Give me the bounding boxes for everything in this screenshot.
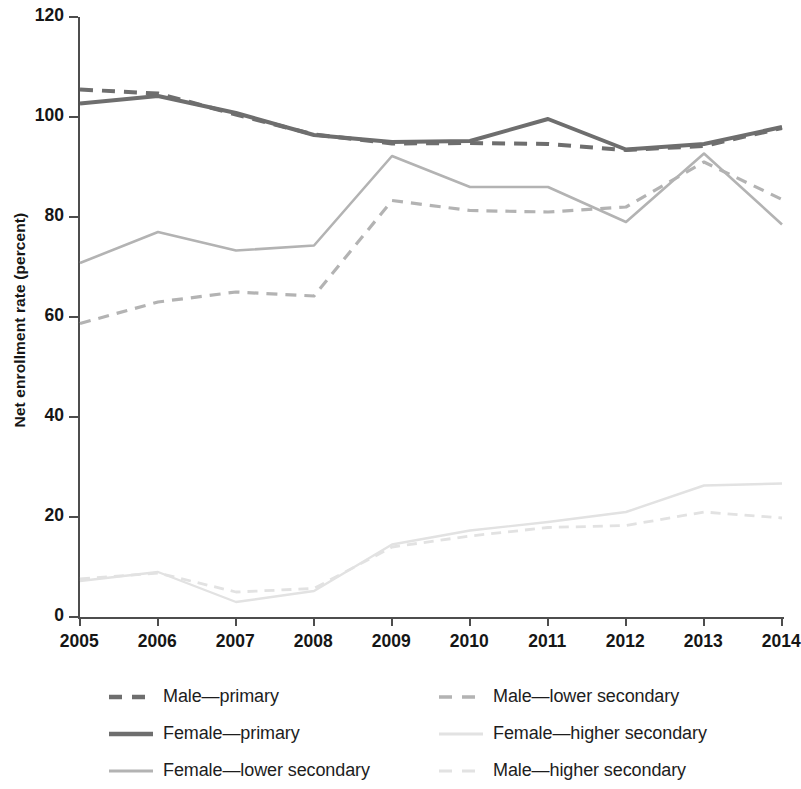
x-axis-tick: 2005 [79,617,81,626]
y-axis-tick: 100 [69,116,78,118]
y-axis-title-text: Net enrollment rate (percent) [11,213,29,428]
legend-item-female-lower-secondary[interactable]: Female—lower secondary [108,752,438,789]
legend-label-female-higher-secondary: Female—higher secondary [493,723,707,744]
y-axis-tick: 40 [69,416,78,418]
y-axis-tick-label: 40 [45,405,64,425]
x-axis-tick-label: 2009 [372,631,411,652]
legend-label-female-lower-secondary: Female—lower secondary [163,760,370,781]
y-axis-tick-label: 80 [45,205,64,225]
x-axis-tick-label: 2005 [60,631,99,652]
series-line-male-higher-secondary [80,512,782,592]
y-axis-tick-label: 100 [35,105,64,125]
x-axis-tick: 2006 [157,617,159,626]
x-axis-tick-label: 2007 [216,631,255,652]
series-lines [78,17,784,617]
x-axis-tick-label: 2012 [606,631,645,652]
y-axis-tick-label: 20 [45,505,64,525]
x-axis-tick-label: 2008 [294,631,333,652]
x-axis-tick: 2009 [391,617,393,626]
x-axis-tick: 2014 [781,617,783,626]
legend-swatch-male-higher-secondary [438,764,484,778]
series-line-male-lower-secondary [80,162,782,324]
legend-label-male-lower-secondary: Male—lower secondary [493,686,679,707]
legend-label-male-primary: Male—primary [163,686,279,707]
x-axis-tick: 2010 [469,617,471,626]
y-axis-tick: 0 [69,616,78,618]
legend-swatch-male-lower-secondary [438,690,484,704]
chart-legend: Male—primaryMale—lower secondaryFemale—p… [108,678,780,789]
legend-item-male-primary[interactable]: Male—primary [108,678,438,715]
series-line-female-lower-secondary [80,154,782,264]
legend-swatch-female-higher-secondary [438,727,484,741]
legend-label-male-higher-secondary: Male—higher secondary [493,760,686,781]
x-axis-line [78,617,784,619]
y-axis-tick-label: 0 [54,605,64,625]
y-axis-tick: 120 [69,16,78,18]
legend-swatch-male-primary [108,690,154,704]
legend-item-female-primary[interactable]: Female—primary [108,715,438,752]
y-axis-tick: 20 [69,516,78,518]
y-axis-tick: 80 [69,216,78,218]
legend-label-female-primary: Female—primary [163,723,300,744]
x-axis-tick-label: 2006 [138,631,177,652]
legend-item-male-higher-secondary[interactable]: Male—higher secondary [438,752,780,789]
y-axis-tick-label: 120 [35,5,64,25]
x-axis-tick: 2012 [625,617,627,626]
y-axis-tick: 60 [69,316,78,318]
x-axis-tick-label: 2011 [528,631,566,652]
x-axis-tick-label: 2014 [762,631,801,652]
legend-swatch-female-primary [108,727,154,741]
x-axis-tick: 2007 [235,617,237,626]
legend-item-female-higher-secondary[interactable]: Female—higher secondary [438,715,780,752]
y-axis-tick-label: 60 [45,305,64,325]
plot-area: 020406080100120 200520062007200820092010… [78,17,784,617]
x-axis-tick: 2013 [703,617,705,626]
x-axis-tick-label: 2013 [684,631,723,652]
legend-item-male-lower-secondary[interactable]: Male—lower secondary [438,678,780,715]
x-axis-tick-label: 2010 [450,631,489,652]
y-axis-title: Net enrollment rate (percent) [0,0,40,640]
legend-swatch-female-lower-secondary [108,764,154,778]
x-axis-tick: 2008 [313,617,315,626]
x-axis-tick: 2011 [547,617,549,626]
